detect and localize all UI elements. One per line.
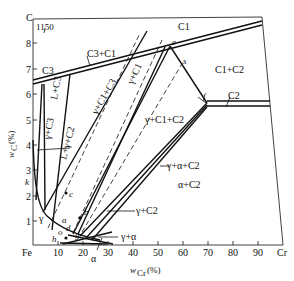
svg-text:60: 60 bbox=[178, 247, 188, 258]
svg-text:4: 4 bbox=[26, 140, 31, 151]
temperature-label: 1150 bbox=[36, 22, 54, 32]
svg-text:w: w bbox=[130, 265, 136, 275]
svg-text:7: 7 bbox=[26, 64, 31, 75]
svg-text:50: 50 bbox=[153, 247, 163, 258]
svg-text:40: 40 bbox=[128, 247, 138, 258]
svg-text:Cr: Cr bbox=[137, 268, 146, 278]
svg-text:8: 8 bbox=[26, 38, 31, 49]
top-edge bbox=[33, 17, 262, 19]
corner-cr-label: Cr bbox=[277, 247, 288, 258]
svg-text:b: b bbox=[84, 207, 89, 217]
corner-c-label: C bbox=[26, 12, 33, 23]
region-gamma: γ bbox=[38, 213, 44, 224]
corner-fe-label: Fe bbox=[22, 247, 33, 258]
svg-text:w: w bbox=[6, 152, 16, 158]
svg-text:d: d bbox=[66, 223, 71, 233]
svg-text:g: g bbox=[75, 230, 80, 240]
svg-text:(%): (%) bbox=[6, 131, 16, 145]
svg-text:f: f bbox=[203, 91, 207, 101]
svg-text:s: s bbox=[183, 56, 187, 66]
region-gamma-c2: γ+C2 bbox=[135, 205, 158, 216]
region-gamma-alpha: γ+α bbox=[120, 231, 137, 242]
svg-text:k: k bbox=[25, 177, 30, 187]
svg-text:e: e bbox=[172, 37, 176, 47]
region-gamma-c3: γ+C3 bbox=[41, 117, 56, 141]
right-edge bbox=[262, 17, 283, 245]
y-tick-labels: 8 7 6 5 4 3 2 1 bbox=[26, 38, 31, 227]
region-gamma-c1-c2: γ+C1+C2 bbox=[144, 114, 184, 125]
region-c2: C2 bbox=[228, 90, 240, 101]
region-alpha: α bbox=[91, 253, 97, 264]
svg-text:c: c bbox=[69, 189, 73, 199]
svg-text:C: C bbox=[9, 145, 19, 151]
region-c1-c2: C1+C2 bbox=[215, 64, 244, 75]
svg-text:5: 5 bbox=[26, 115, 31, 126]
svg-text:o: o bbox=[58, 227, 63, 237]
svg-text:80: 80 bbox=[228, 247, 238, 258]
region-c1: C1 bbox=[178, 21, 190, 32]
svg-text:6: 6 bbox=[26, 89, 31, 100]
svg-text:90: 90 bbox=[253, 247, 263, 258]
y-axis-title: w C (%) bbox=[6, 131, 19, 159]
svg-text:70: 70 bbox=[203, 247, 213, 258]
region-alpha-c2: α+C2 bbox=[178, 179, 201, 190]
svg-text:20: 20 bbox=[78, 247, 88, 258]
x-axis-title: w Cr (%) bbox=[130, 265, 161, 278]
svg-text:3: 3 bbox=[26, 165, 31, 176]
rotated-region-labels: L+C3 γ+C3 L+γ+C2 γ+C1+C3 γ+C1 bbox=[41, 61, 144, 160]
x-tick-labels: 10 20 30 40 50 60 70 80 90 bbox=[53, 247, 263, 258]
phase-diagram: 8 7 6 5 4 3 2 1 10 20 30 40 50 60 70 80 … bbox=[0, 0, 294, 281]
svg-text:1: 1 bbox=[26, 216, 31, 227]
svg-text:h: h bbox=[52, 234, 57, 244]
svg-text:(%): (%) bbox=[147, 265, 161, 275]
region-c3-c1: C3+C1 bbox=[87, 48, 116, 59]
svg-text:30: 30 bbox=[103, 247, 113, 258]
svg-text:2: 2 bbox=[26, 191, 31, 202]
region-l-gamma-c2: L+γ+C2 bbox=[57, 125, 76, 160]
region-gamma-alpha-c2: γ+α+C2 bbox=[166, 160, 200, 171]
region-c3: C3 bbox=[42, 65, 54, 76]
svg-text:10: 10 bbox=[53, 247, 63, 258]
